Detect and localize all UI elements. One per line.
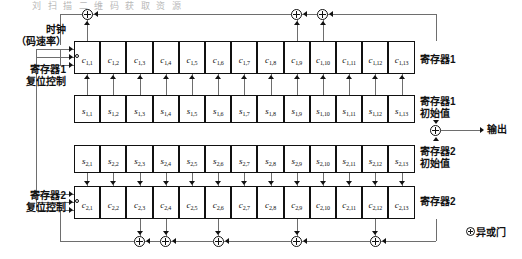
register1-init-label-line2: 初始值 <box>420 108 450 119</box>
xor-gate-bottom <box>160 236 171 247</box>
top-feedback-right-riser <box>436 14 437 41</box>
bottom-tap-arrowhead <box>294 231 300 235</box>
register2-init-label-line1: 寄存器2 <box>420 146 456 157</box>
register-c1-cell: c1,4 <box>153 41 179 74</box>
bottom-bus-arrowhead <box>172 238 176 244</box>
load-arrow-s2-to-c2 <box>294 181 300 185</box>
register-c1-cell: c1,13 <box>388 41 414 74</box>
clock-port-c2 <box>75 199 79 203</box>
legend-xor-icon <box>466 227 475 236</box>
register-s2-cell: s2,7 <box>231 145 257 173</box>
register-s1-cell: s1,1 <box>74 95 100 123</box>
top-feedback-bus <box>87 14 436 15</box>
register-s1-cell: s1,3 <box>126 95 152 123</box>
load-arrow-s1-to-c1 <box>189 75 195 79</box>
top-bus-arrowhead <box>303 11 307 17</box>
bottom-bus-arrowhead <box>146 238 150 244</box>
clock-label: 时钟 <box>0 24 66 35</box>
register-c1-cell: c1,9 <box>284 41 310 74</box>
xor-gate-bottom <box>370 236 381 247</box>
register-s1-cell: s1,9 <box>284 95 310 123</box>
load-arrow-s1-to-c1 <box>84 75 90 79</box>
register-c1-cell: c1,3 <box>126 41 152 74</box>
xor-gate-bottom <box>213 236 224 247</box>
bottom-bus-arrowhead <box>382 238 386 244</box>
load-arrow-s2-to-c2 <box>163 181 169 185</box>
output-gate-arrow-top <box>433 120 439 124</box>
figure-canvas: 刘 扫 描 二 维 码 获 取 资 源 c1,1c1,2c1,3c1,4c1,5… <box>0 0 522 259</box>
xor-gate-output <box>430 125 441 136</box>
register-s2-cell: s2,13 <box>388 145 414 173</box>
register-s1-cell: s1,5 <box>179 95 205 123</box>
clock-rate-label: （码速率） <box>0 36 66 47</box>
register-s1-cell: s1,13 <box>388 95 414 123</box>
load-arrow-s2-to-c2 <box>320 181 326 185</box>
register-s2-cell: s2,10 <box>310 145 336 173</box>
output-line <box>441 130 480 131</box>
register-c1-cell: c1,5 <box>179 41 205 74</box>
clock-bus-c1 <box>60 49 61 65</box>
load-arrow-s1-to-c1 <box>320 75 326 79</box>
page-header-fragment: 刘 扫 描 二 维 码 获 取 资 源 <box>32 0 183 12</box>
top-bus-arrowhead <box>94 11 98 17</box>
register-s2-cell: s2,4 <box>153 145 179 173</box>
load-arrow-s1-to-c1 <box>294 75 300 79</box>
register-s2-cell: s2,1 <box>74 145 100 173</box>
register-s2-cell: s2,9 <box>284 145 310 173</box>
load-arrow-s1-to-c1 <box>346 75 352 79</box>
xor-gate-top <box>291 9 302 20</box>
register1-init-label-line1: 寄存器1 <box>420 96 456 107</box>
register-s2-cell: s2,12 <box>362 145 388 173</box>
load-arrow-s2-to-c2 <box>399 181 405 185</box>
load-arrow-s2-to-c2 <box>372 181 378 185</box>
register-s2-cell: s2,2 <box>100 145 126 173</box>
xor-gate-top <box>82 9 93 20</box>
register-c1-cell: c1,11 <box>336 41 362 74</box>
bottom-bus-arrowhead <box>225 238 229 244</box>
top-tap-arrowhead <box>320 21 326 25</box>
register1-label: 寄存器1 <box>420 54 456 65</box>
load-arrow-s2-to-c2 <box>137 181 143 185</box>
register1-reset-label-line2: 复位控制 <box>0 76 66 87</box>
register1-reset-label-line1: 寄存器1 <box>0 64 66 75</box>
xor-gate-top <box>317 9 328 20</box>
register-c2-cell: c2,2 <box>100 186 126 219</box>
register-s2-cell: s2,3 <box>126 145 152 173</box>
load-arrow-s1-to-c1 <box>399 75 405 79</box>
register-c1-cell: c1,6 <box>205 41 231 74</box>
reset-input-arrow-c2-b <box>69 207 73 213</box>
load-arrow-s2-to-c2 <box>84 181 90 185</box>
register2-reset-label-line2: 复位控制 <box>0 202 66 213</box>
output-arrowhead <box>480 127 484 133</box>
reset-input-arrow-c1-b <box>69 62 73 68</box>
register-c2-cell: c2,6 <box>205 186 231 219</box>
load-arrow-s1-to-c1 <box>268 75 274 79</box>
bottom-bus-arrowhead <box>303 238 307 244</box>
clock-input-arrow-c1 <box>69 46 73 52</box>
register-s1-cell: s1,7 <box>231 95 257 123</box>
register-s1-cell: s1,11 <box>336 95 362 123</box>
register-s1-cell: s1,10 <box>310 95 336 123</box>
bottom-feedback-right-riser <box>436 219 437 241</box>
register-s1-cell: s1,12 <box>362 95 388 123</box>
register2-label: 寄存器2 <box>420 196 456 207</box>
load-arrow-s2-to-c2 <box>268 181 274 185</box>
register-s1-cell: s1,8 <box>257 95 283 123</box>
register2-init-label-line2: 初始值 <box>420 158 450 169</box>
register-s2-cell: s2,11 <box>336 145 362 173</box>
load-arrow-s1-to-c1 <box>372 75 378 79</box>
register-s2-cell: s2,8 <box>257 145 283 173</box>
register-c2-cell: c2,9 <box>284 186 310 219</box>
load-arrow-s2-to-c2 <box>346 181 352 185</box>
xor-gate-bottom <box>291 236 302 247</box>
load-arrow-s2-to-c2 <box>189 181 195 185</box>
output-gate-arrow-bottom <box>433 137 439 141</box>
load-arrow-s1-to-c1 <box>163 75 169 79</box>
top-tap-arrowhead <box>84 21 90 25</box>
load-arrow-s2-to-c2 <box>241 181 247 185</box>
register-c2-cell: c2,3 <box>126 186 152 219</box>
reset-input-arrow-c1-a <box>69 54 73 60</box>
register-s2-cell: s2,5 <box>179 145 205 173</box>
load-arrow-s1-to-c1 <box>110 75 116 79</box>
register-c2-cell: c2,13 <box>388 186 414 219</box>
